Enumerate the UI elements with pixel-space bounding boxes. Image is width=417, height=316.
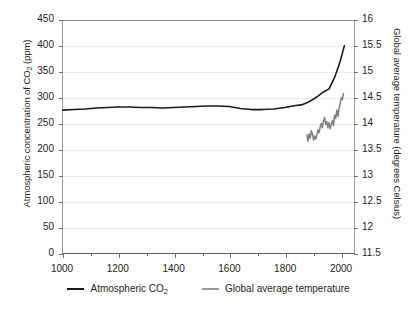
y-axis-left-tick-label: 50 [22, 221, 54, 232]
x-axis-minor-tick [258, 253, 259, 256]
x-axis-tick-label: 1800 [263, 263, 307, 274]
y-axis-right-tick-label: 12 [362, 221, 396, 232]
y-axis-right-tick-label: 13 [362, 169, 396, 180]
y-axis-right-tick-label: 15.5 [362, 39, 396, 50]
y-axis-left-tick [59, 150, 63, 151]
y-axis-right-tick-label: 11.5 [362, 247, 396, 258]
y-axis-left-tick-label: 150 [22, 169, 54, 180]
y-axis-right-tick [354, 46, 358, 47]
y-axis-left-tick [59, 228, 63, 229]
series-group [63, 20, 354, 253]
y-axis-right-tick [354, 202, 358, 203]
x-axis-tick-label: 1200 [96, 263, 140, 274]
y-axis-right-tick-label: 12.5 [362, 195, 396, 206]
legend-item-global-average-temperature: Global average temperature [202, 283, 350, 294]
y-axis-left-tick [59, 202, 63, 203]
x-axis-tick-label: 1000 [40, 263, 84, 274]
y-axis-left-tick [59, 72, 63, 73]
x-axis-tick [230, 253, 231, 258]
series-line-atmospheric-co2 [63, 46, 344, 110]
x-axis-minor-tick [314, 253, 315, 256]
y-axis-right-tick [354, 124, 358, 125]
y-axis-left-tick-label: 400 [22, 39, 54, 50]
y-axis-right-tick-label: 14 [362, 117, 396, 128]
x-axis-tick [63, 253, 64, 258]
x-axis-tick-label: 2000 [319, 263, 363, 274]
y-axis-right-tick-label: 13.5 [362, 143, 396, 154]
y-axis-left-tick [59, 46, 63, 47]
y-axis-right-tick-label: 16 [362, 13, 396, 24]
y-axis-right-tick [354, 254, 358, 255]
legend-label-subscript: 2 [164, 287, 168, 296]
y-axis-right-tick [354, 20, 358, 21]
legend-label-atmospheric-co2: Atmospheric CO2 [90, 283, 168, 294]
y-axis-right-tick-label: 14.5 [362, 91, 396, 102]
y-axis-left-tick-label: 200 [22, 143, 54, 154]
chart-container: Atmospheric concentration of CO2 (ppm) G… [0, 0, 417, 316]
y-axis-left-tick-label: 0 [22, 247, 54, 258]
x-axis-tick-label: 1400 [152, 263, 196, 274]
legend-label-text: Atmospheric CO [90, 283, 163, 294]
y-axis-left-tick [59, 176, 63, 177]
y-axis-left-tick [59, 124, 63, 125]
x-axis-minor-tick [91, 253, 92, 256]
y-axis-left-tick-label: 250 [22, 117, 54, 128]
y-axis-left-tick-label: 450 [22, 13, 54, 24]
y-axis-left-tick-label: 350 [22, 65, 54, 76]
x-axis-tick [286, 253, 287, 258]
y-axis-left-tick [59, 20, 63, 21]
y-axis-right-tick [354, 228, 358, 229]
y-axis-right-tick [354, 150, 358, 151]
x-axis-tick-label: 1600 [207, 263, 251, 274]
y-axis-right-tick [354, 98, 358, 99]
y-axis-right-tick [354, 176, 358, 177]
y-axis-left-tick-label: 100 [22, 195, 54, 206]
legend-swatch-global-average-temperature [202, 288, 219, 290]
y-axis-right-tick [354, 72, 358, 73]
x-axis-tick [175, 253, 176, 258]
x-axis-tick [119, 253, 120, 258]
x-axis-minor-tick [203, 253, 204, 256]
y-axis-right-tick-label: 15 [362, 65, 396, 76]
plot-area [62, 20, 355, 254]
y-axis-left-tick-label: 300 [22, 91, 54, 102]
x-axis-tick [342, 253, 343, 258]
y-axis-left-tick [59, 98, 63, 99]
legend-label-global-average-temperature: Global average temperature [225, 283, 350, 294]
legend-swatch-atmospheric-co2 [67, 288, 84, 290]
chart-legend: Atmospheric CO2 Global average temperatu… [0, 283, 417, 294]
x-axis-minor-tick [147, 253, 148, 256]
legend-item-atmospheric-co2: Atmospheric CO2 [67, 283, 168, 294]
